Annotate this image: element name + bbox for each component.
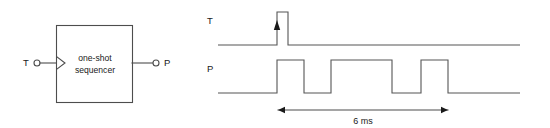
waveform-label-p: P — [207, 63, 213, 74]
output-terminal-label: P — [164, 57, 170, 68]
block-diagram-group: T one-shot sequencer P — [23, 26, 170, 103]
duration-dimension: 6 ms — [278, 107, 448, 126]
waveform-group: T P 6 ms — [207, 12, 520, 126]
duration-label: 6 ms — [353, 116, 373, 126]
box-label-line1: one-shot — [78, 53, 112, 63]
output-terminal-circle — [153, 60, 159, 66]
waveform-trace-t — [218, 12, 520, 45]
dimension-arrow-right-icon — [441, 107, 448, 113]
box-label-line2: sequencer — [75, 65, 115, 75]
one-shot-sequencer-box — [57, 26, 133, 103]
waveform-label-t: T — [207, 15, 213, 26]
diagram-canvas: T one-shot sequencer P T — [0, 0, 550, 128]
timing-diagram-figure: T one-shot sequencer P T — [0, 0, 550, 128]
input-terminal-label: T — [23, 57, 29, 68]
waveform-trace-p — [218, 60, 520, 93]
input-terminal-circle — [34, 60, 40, 66]
dimension-arrow-left-icon — [278, 107, 285, 113]
rising-edge-arrowhead-icon — [274, 20, 280, 30]
